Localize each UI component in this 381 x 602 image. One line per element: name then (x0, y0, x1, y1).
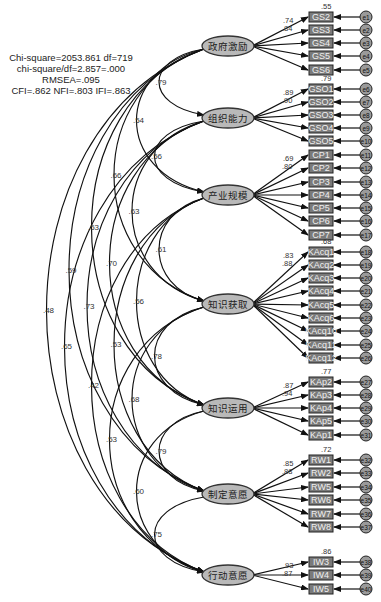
loading-path (252, 89, 308, 118)
observed-indicator: GSO2 (308, 97, 333, 107)
correlation-arc (92, 198, 205, 572)
observed-indicator: IW4 (309, 570, 333, 580)
error-term: e9 (360, 122, 372, 134)
observed-indicator: KAcq11 (306, 340, 337, 350)
indicator-label: RW8 (311, 522, 331, 532)
latent-label: 产业规模 (208, 190, 248, 201)
loading-path (252, 408, 308, 435)
indicator-label: CP4 (312, 190, 330, 200)
loading-path (252, 118, 308, 128)
correlation-value: .68 (128, 395, 140, 404)
error-term: e4 (360, 50, 372, 62)
latent-construct-group: GSO1e6GSO2e7GSO3e8GSO4e9GSO5e10组织能力.79.8… (202, 74, 372, 147)
observed-indicator: KAp1 (309, 430, 333, 440)
error-label: e30 (361, 418, 372, 425)
indicator-label: IW5 (313, 584, 329, 594)
error-term: e29 (360, 402, 372, 414)
observed-indicator: GSO5 (308, 136, 333, 146)
latent-label: 政府激励 (208, 41, 248, 52)
latent-label: 制定意愿 (208, 489, 248, 500)
loading-path (252, 304, 308, 305)
correlation-value: .66 (110, 171, 122, 180)
error-term: e33 (360, 467, 372, 479)
error-label: e15 (361, 205, 372, 212)
error-label: e12 (361, 165, 372, 172)
error-term: e1 (360, 11, 372, 23)
indicator-label: IW3 (313, 557, 329, 567)
loading-path (252, 382, 308, 408)
loading-path (252, 460, 308, 494)
error-label: e35 (361, 497, 372, 504)
error-label: e28 (361, 392, 372, 399)
indicator-label: KAp5 (310, 416, 332, 426)
factor-loading: .88 (282, 467, 292, 476)
loading-path (252, 278, 308, 304)
indicator-label: RW7 (311, 509, 331, 519)
loading-path (252, 408, 308, 421)
observed-indicator: CP3 (309, 177, 333, 187)
error-term: e14 (360, 189, 372, 201)
error-term: e13 (360, 176, 372, 188)
correlation-value: .79 (155, 78, 167, 87)
error-label: e6 (362, 86, 370, 93)
error-term: e10 (360, 135, 372, 147)
latent-construct-group: GS2e1GS3e2GS4e3GS5e4GS6e5政府激励.55.74.84 (202, 2, 372, 76)
observed-indicator: RW7 (309, 509, 333, 519)
correlation-arc (132, 307, 204, 491)
loading-path (252, 46, 308, 56)
indicator-label: RW1 (311, 455, 331, 465)
indicator-label: GS4 (312, 38, 330, 48)
indicator-label: RW6 (311, 495, 331, 505)
observed-indicator: CP1 (309, 150, 333, 160)
loading-path (252, 265, 308, 304)
latent-construct-group: RW1e32RW2e33RW5e34RW6e35RW7e36RW8e37制定意愿… (202, 445, 372, 533)
error-term: e5 (360, 64, 372, 76)
error-term: e12 (360, 162, 372, 174)
observed-indicator: KAcq1 (308, 247, 335, 257)
indicator-label: CP5 (312, 203, 330, 213)
correlation-value: .63 (128, 207, 140, 216)
observed-indicator: GS3 (309, 25, 333, 35)
indicator-label: GS2 (312, 12, 330, 22)
error-term: e31 (360, 429, 372, 441)
error-term: e36 (360, 508, 372, 520)
loading-path (252, 118, 308, 141)
observed-indicator: GS5 (309, 51, 333, 61)
error-label: e7 (362, 99, 370, 106)
indicator-label: CP6 (312, 216, 330, 226)
indicator-label: GSO5 (308, 136, 333, 146)
error-label: e38 (361, 559, 372, 566)
squared-multiple-correlation: .86 (321, 547, 331, 556)
correlation-arc (110, 121, 205, 405)
error-label: e1 (362, 14, 370, 21)
error-term: e38 (360, 556, 372, 568)
error-term: e18 (360, 246, 372, 258)
loading-path (252, 575, 308, 589)
indicator-label: KAcq10 (305, 326, 337, 336)
error-label: e21 (361, 288, 372, 295)
observed-indicator: KAp2 (309, 377, 333, 387)
loading-path (252, 562, 308, 575)
observed-indicator: RW5 (309, 482, 333, 492)
error-label: e27 (361, 379, 372, 386)
error-label: e36 (361, 511, 372, 518)
error-label: e31 (361, 432, 372, 439)
indicator-label: KAp4 (310, 403, 332, 413)
correlation-arcs (47, 49, 205, 572)
error-label: e9 (362, 125, 370, 132)
correlation-value: .75 (151, 530, 163, 539)
error-label: e11 (361, 152, 372, 159)
loading-path (252, 304, 308, 318)
observed-indicator: KAcq3 (308, 273, 335, 283)
observed-indicator: GSO1 (308, 84, 333, 94)
correlation-value: .48 (43, 306, 55, 315)
error-label: e17 (361, 232, 372, 239)
factor-loading: .84 (282, 24, 292, 33)
indicator-label: GSO2 (308, 97, 333, 107)
indicator-label: GSO1 (308, 84, 333, 94)
factor-loading: .87 (282, 569, 292, 578)
observed-indicator: GSO4 (308, 123, 333, 133)
indicator-label: GS5 (312, 51, 330, 61)
indicator-label: GSO4 (308, 123, 333, 133)
loading-path (252, 304, 308, 358)
